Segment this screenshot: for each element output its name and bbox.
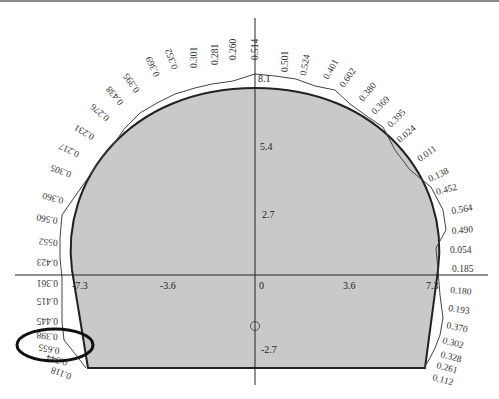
svg-text:0.401: 0.401 [321,57,340,81]
x-tick: -7.3 [72,280,88,291]
svg-text:0.524: 0.524 [298,53,312,76]
svg-text:0.395: 0.395 [121,71,142,94]
svg-text:0.024: 0.024 [395,123,418,145]
svg-text:0.452: 0.452 [435,182,458,197]
y-tick: -2.7 [261,344,277,355]
svg-text:0.180: 0.180 [450,285,472,297]
y-tick: 2.7 [262,209,275,220]
y-tick: 5.4 [260,141,273,152]
svg-text:0.369: 0.369 [369,94,391,116]
svg-text:0.231: 0.231 [72,122,96,141]
svg-text:0.352: 0.352 [163,47,180,71]
svg-text:0.193: 0.193 [448,303,471,316]
x-tick: 7.3 [426,280,439,291]
svg-text:0.011: 0.011 [415,143,438,163]
svg-text:0.361: 0.361 [36,278,58,288]
svg-text:0.276: 0.276 [88,102,111,124]
svg-text:0.380: 0.380 [357,80,379,103]
measure-label: 0.514 [250,38,260,60]
svg-text:0.370: 0.370 [446,320,469,334]
svg-text:0.438: 0.438 [104,84,126,107]
svg-text:0.490: 0.490 [451,224,473,236]
x-tick: 0 [259,280,264,291]
svg-text:0.445: 0.445 [36,316,58,326]
svg-text:0.560: 0.560 [35,212,58,226]
svg-text:0.423: 0.423 [36,257,58,268]
svg-text:0.415: 0.415 [36,296,58,306]
svg-text:0.281: 0.281 [210,43,220,65]
y-tick: 8.1 [258,73,271,84]
svg-text:0.602: 0.602 [337,66,358,89]
svg-text:0.260: 0.260 [228,38,238,60]
svg-text:0.302: 0.302 [441,335,464,350]
svg-text:0.185: 0.185 [452,264,474,274]
svg-text:0.112: 0.112 [431,372,454,387]
svg-text:0.138: 0.138 [427,166,451,184]
tunnel-diagram: -7.3 -3.6 0 3.6 7.3 8.1 5.4 2.7 -2.7 0.5… [0,0,499,399]
svg-text:0.217: 0.217 [57,141,81,159]
svg-text:0552: 0552 [38,236,58,248]
svg-text:0.301: 0.301 [189,46,199,68]
svg-text:0.395: 0.395 [385,107,407,129]
svg-text:0.369: 0.369 [144,55,162,79]
x-tick: -3.6 [160,280,176,291]
svg-text:0.564: 0.564 [451,202,474,216]
svg-text:0.501: 0.501 [280,50,290,72]
svg-text:0.360: 0.360 [41,190,64,205]
svg-text:0.305: 0.305 [49,163,73,180]
svg-text:0.054: 0.054 [450,245,472,255]
x-tick: 3.6 [343,280,356,291]
